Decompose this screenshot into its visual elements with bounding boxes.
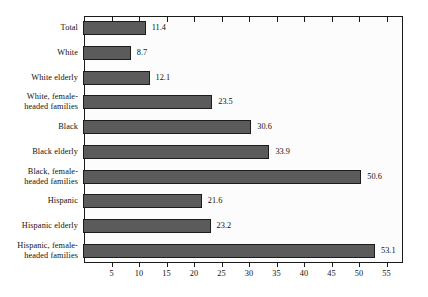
x-tick-label: 40 <box>300 269 308 279</box>
category-label-line: Total <box>0 23 78 33</box>
x-tick-mark <box>167 263 168 267</box>
category-label-line: White <box>0 48 78 58</box>
category-label: White, female-headed families <box>0 92 78 112</box>
bar-value-label: 8.7 <box>137 46 147 60</box>
category-label: Total <box>0 23 78 33</box>
bar-value-label: 23.2 <box>217 219 232 233</box>
x-tick-mark <box>139 263 140 267</box>
x-tick-mark <box>112 263 113 267</box>
bar <box>83 46 131 60</box>
category-label-line: Hispanic <box>0 196 78 206</box>
category-label: Black, female-headed families <box>0 167 78 187</box>
bar <box>83 194 202 208</box>
bar <box>83 219 211 233</box>
category-label-line: White, female- <box>0 92 78 102</box>
x-tick-label: 55 <box>382 269 390 279</box>
bar-value-label: 11.4 <box>152 21 166 35</box>
x-tick-label: 50 <box>355 269 363 279</box>
x-tick-mark <box>304 263 305 267</box>
x-tick-mark <box>387 263 388 267</box>
x-tick-mark <box>277 263 278 267</box>
category-label: Black elderly <box>0 147 78 157</box>
category-axis-labels: TotalWhiteWhite elderlyWhite, female-hea… <box>0 16 81 263</box>
bar <box>83 95 212 109</box>
x-tick-label: 45 <box>327 269 335 279</box>
bar <box>83 21 146 35</box>
bar <box>83 244 375 258</box>
x-tick-label: 5 <box>109 269 113 279</box>
category-label-line: headed families <box>0 177 78 187</box>
category-label: Hispanic, female-headed families <box>0 241 78 261</box>
x-tick-label: 35 <box>272 269 280 279</box>
category-label: Black <box>0 122 78 132</box>
bar-chart: TotalWhiteWhite elderlyWhite, female-hea… <box>0 0 428 297</box>
x-tick-mark <box>359 263 360 267</box>
bar-value-label: 23.5 <box>218 95 233 109</box>
x-tick-label: 30 <box>245 269 253 279</box>
x-tick-label: 20 <box>190 269 198 279</box>
category-label-line: White elderly <box>0 73 78 83</box>
x-tick-label: 10 <box>135 269 143 279</box>
category-label: White <box>0 48 78 58</box>
x-tick-mark <box>222 263 223 267</box>
bar <box>83 71 150 85</box>
category-label-line: Black <box>0 122 78 132</box>
category-label-line: headed families <box>0 251 78 261</box>
x-tick-mark <box>249 263 250 267</box>
bar-value-label: 50.6 <box>367 170 382 184</box>
bar <box>83 145 269 159</box>
bar-value-label: 21.6 <box>208 194 223 208</box>
bar <box>83 170 361 184</box>
x-axis: 510152025303540455055 <box>84 263 403 293</box>
x-tick-label: 15 <box>162 269 170 279</box>
category-label-line: Hispanic elderly <box>0 221 78 231</box>
bar-value-label: 53.1 <box>381 244 396 258</box>
category-label-line: Black elderly <box>0 147 78 157</box>
x-tick-label: 25 <box>217 269 225 279</box>
category-label: White elderly <box>0 73 78 83</box>
bar <box>83 120 251 134</box>
category-label-line: Hispanic, female- <box>0 241 78 251</box>
bar-value-label: 30.6 <box>257 120 272 134</box>
bar-value-label: 12.1 <box>156 71 171 85</box>
category-label-line: headed families <box>0 102 78 112</box>
bars-container: 11.48.712.123.530.633.950.621.623.253.1 <box>84 16 403 263</box>
bar-value-label: 33.9 <box>275 145 290 159</box>
category-label: Hispanic elderly <box>0 221 78 231</box>
x-tick-mark <box>194 263 195 267</box>
x-tick-mark <box>332 263 333 267</box>
category-label: Hispanic <box>0 196 78 206</box>
category-label-line: Black, female- <box>0 167 78 177</box>
